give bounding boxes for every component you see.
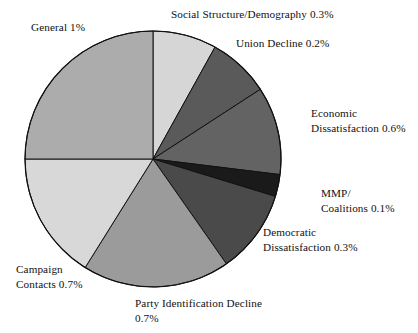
slice-label-democratic-dissatisfaction: Democratic Dissatisfaction 0.3% xyxy=(263,225,358,254)
slice-label-general: General 1% xyxy=(31,20,85,35)
pie-slice-general xyxy=(25,31,153,159)
slice-label-union-decline: Union Decline 0.2% xyxy=(236,36,329,51)
slice-label-party-identification-decline: Party Identification Decline 0.7% xyxy=(135,296,262,325)
slice-label-social-structure-demography: Social Structure/Demography 0.3% xyxy=(171,7,334,22)
slice-label-mmp-coalitions: MMP/ Coalitions 0.1% xyxy=(321,186,395,215)
slice-label-campaign-contacts: Campaign Contacts 0.7% xyxy=(16,262,83,291)
pie-slice-group xyxy=(25,31,281,287)
pie-chart-figure: General 1% Social Structure/Demography 0… xyxy=(0,0,418,333)
slice-label-economic-dissatisfaction: Economic Dissatisfaction 0.6% xyxy=(311,106,406,135)
